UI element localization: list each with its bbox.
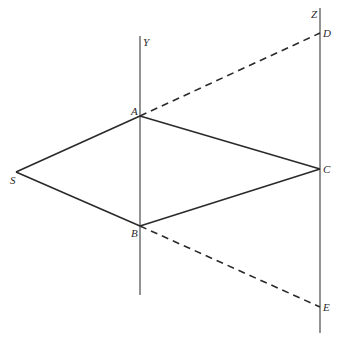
geometry-diagram: Y Z A B C D E S xyxy=(0,0,340,345)
label-e: E xyxy=(322,301,330,313)
label-a: A xyxy=(130,105,138,117)
label-y: Y xyxy=(143,36,151,48)
label-b: B xyxy=(131,227,138,239)
label-z: Z xyxy=(311,8,318,20)
segment-a-d-dashed xyxy=(140,33,320,116)
segment-b-c xyxy=(140,169,320,226)
segment-s-b xyxy=(16,172,140,226)
segment-a-c xyxy=(140,116,320,169)
label-c: C xyxy=(323,163,331,175)
label-d: D xyxy=(322,27,331,39)
label-s: S xyxy=(10,174,16,186)
segment-s-a xyxy=(16,116,140,172)
segment-b-e-dashed xyxy=(140,226,320,307)
